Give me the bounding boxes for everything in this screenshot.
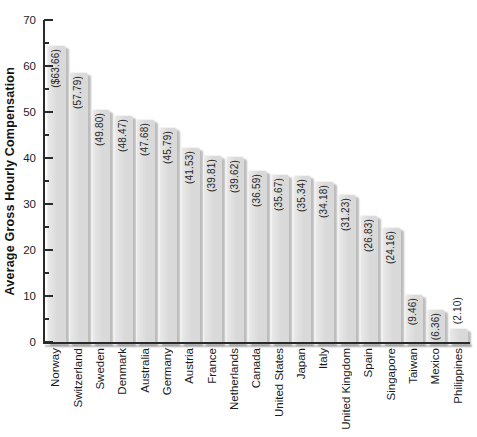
y-minor-tick: [44, 88, 49, 89]
x-category-label: Germany: [161, 348, 174, 395]
x-category-label: Singapore: [385, 348, 398, 400]
bar-chart: Average Gross Hourly Compensation 010203…: [0, 0, 477, 437]
x-category-label: Mexico: [429, 348, 442, 384]
y-minor-tick: [44, 180, 49, 181]
y-tick-label: 10: [8, 289, 36, 303]
y-minor-tick: [44, 272, 49, 273]
x-category-label: Spain: [362, 348, 375, 377]
y-tick-label: 70: [8, 13, 36, 27]
bar: [69, 72, 88, 343]
bar-value-label: (35.67): [273, 178, 285, 211]
bar-value-label: (24.16): [385, 231, 397, 264]
x-category-label: Italy: [317, 348, 330, 369]
y-tick: [44, 65, 53, 67]
bar: [47, 45, 66, 343]
y-tick: [44, 295, 53, 297]
bar-value-label: (47.68): [139, 123, 151, 156]
y-tick-label: 20: [8, 243, 36, 257]
x-category-label: Austria: [183, 348, 196, 384]
bar-value-label: (36.59): [251, 174, 263, 207]
y-tick-label: 60: [8, 59, 36, 73]
bar-value-label: (6.36): [430, 313, 442, 340]
y-minor-tick: [44, 318, 49, 319]
x-category-label: Canada: [250, 348, 263, 388]
bar-value-label: (31.23): [340, 198, 352, 231]
y-minor-tick: [44, 226, 49, 227]
y-tick: [44, 203, 53, 205]
bar-value-label: (49.80): [94, 113, 106, 146]
y-tick: [44, 249, 53, 251]
y-tick-label: 0: [8, 335, 36, 349]
bar: [449, 328, 468, 343]
x-category-label: Philippines: [452, 348, 465, 404]
x-category-label: Norway: [49, 348, 62, 387]
x-category-label: France: [206, 348, 219, 384]
x-category-label: Switzerland: [72, 348, 85, 407]
bar-value-label: (48.47): [117, 119, 129, 152]
x-axis-line: [43, 342, 470, 344]
x-category-label: United States: [273, 348, 286, 417]
y-tick: [44, 111, 53, 113]
y-tick-label: 50: [8, 105, 36, 119]
x-category-label: Denmark: [116, 348, 129, 395]
bar-value-label: (35.34): [296, 179, 308, 212]
bar-value-label: (26.83): [363, 219, 375, 252]
x-category-label: Sweden: [94, 348, 107, 390]
bar-value-label: (34.18): [318, 185, 330, 218]
bar-value-label: (9.46): [407, 298, 419, 325]
x-category-label: Netherlands: [228, 348, 241, 410]
y-tick: [44, 157, 53, 159]
x-category-label: Japan: [295, 348, 308, 379]
x-category-label: Taiwan: [407, 348, 420, 384]
bar-value-label: (39.81): [206, 159, 218, 192]
y-tick-label: 40: [8, 151, 36, 165]
bar-value-label: ($63.66): [50, 49, 62, 88]
bar-value-label: (41.53): [184, 151, 196, 184]
bar-value-label: (2.10): [452, 297, 464, 324]
bar-value-label: (45.79): [162, 131, 174, 164]
y-minor-tick: [44, 42, 49, 43]
x-category-label: Australia: [139, 348, 152, 393]
bar-value-label: (39.62): [229, 160, 241, 193]
y-axis-title: Average Gross Hourly Compensation: [3, 67, 17, 295]
y-minor-tick: [44, 134, 49, 135]
y-tick-label: 30: [8, 197, 36, 211]
bar-value-label: (57.79): [72, 76, 84, 109]
y-tick: [44, 19, 53, 21]
x-category-label: United Kingdom: [340, 348, 353, 430]
